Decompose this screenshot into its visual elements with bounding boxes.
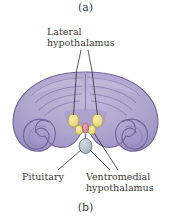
panel-label-b: (b) (0, 201, 171, 214)
annotation-lateral-hypothalamus: Lateral hypothalamus (47, 26, 115, 48)
leader-pituitary (58, 150, 81, 170)
ventromedial-nucleus-left (75, 126, 82, 135)
figure-panel: (a) (0, 0, 171, 220)
midline-nucleus (83, 123, 89, 133)
lateral-hypothalamus-nucleus-left (68, 114, 79, 127)
pituitary-gland (79, 134, 92, 154)
lateral-hypothalamus-nucleus-right (92, 114, 103, 127)
annotation-ventromedial-hypothalamus: Ventromedial hypothalamus (86, 171, 154, 193)
annotation-pituitary: Pituitary (22, 171, 64, 182)
